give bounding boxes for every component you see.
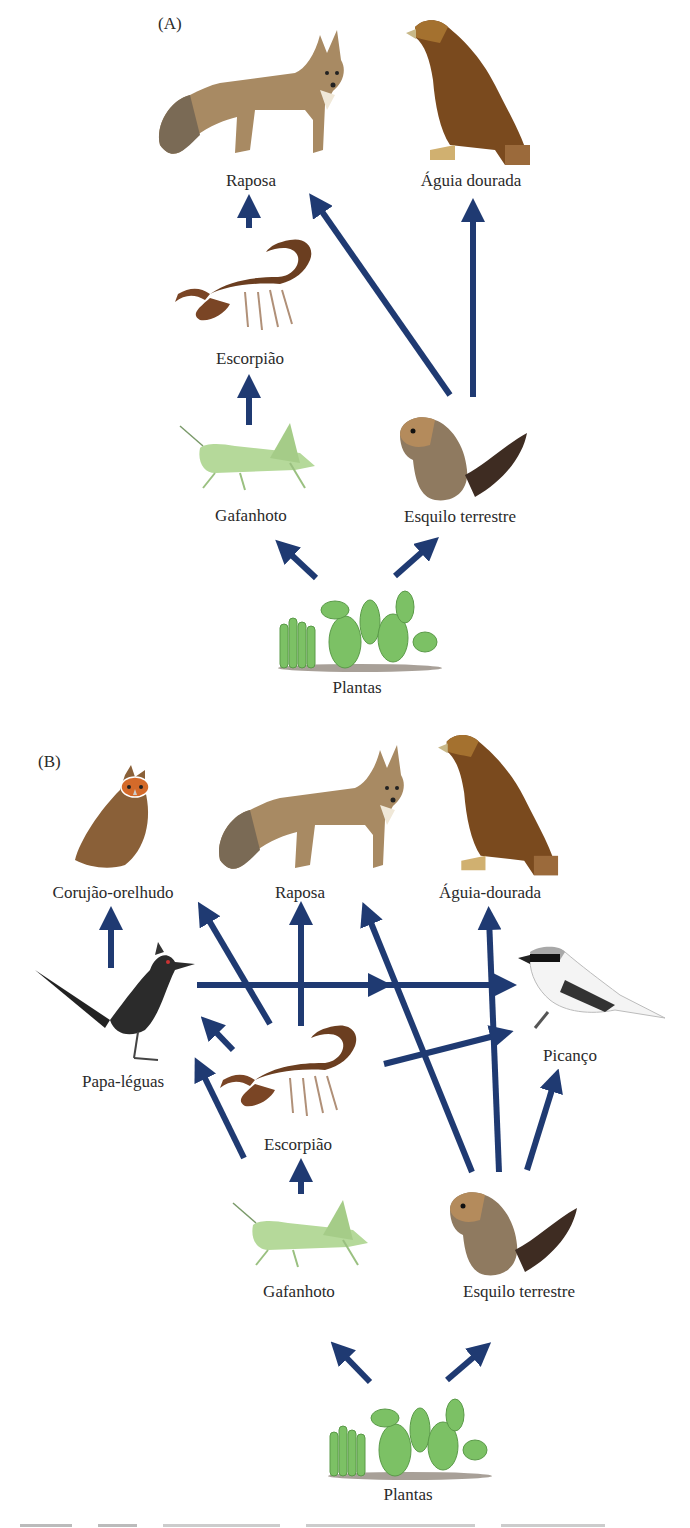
fox-illustration [155,25,355,170]
label-owl: Corujão-orelhudo [53,883,174,903]
cactus-plants-illustration [275,582,445,672]
label-shrike: Picanço [543,1046,597,1066]
label-scorpion-b: Escorpião [264,1135,332,1155]
owl-illustration [65,765,165,875]
label-eagle-a: Águia dourada [421,171,522,191]
label-roadrunner: Papa-léguas [82,1072,164,1092]
label-plants-b: Plantas [383,1485,432,1505]
cactus-plants-illustration-b [325,1390,495,1480]
grasshopper-illustration-b [228,1195,378,1270]
arrow-squirrel-to-fox-a [316,203,450,395]
arrow-plants-to-grasshopper-a [284,548,316,578]
arrow-plants-to-squirrel-a [395,545,430,576]
scorpion-illustration-b [215,1018,375,1130]
shrike-illustration [510,940,670,1040]
arrow-squirrel-to-eagle [489,918,499,1172]
label-fox-b: Raposa [275,883,325,903]
label-scorpion-a: Escorpião [216,349,284,369]
arrow-scorpion-to-shrike [384,1034,502,1064]
eagle-illustration [400,15,540,170]
scorpion-illustration [170,232,330,344]
arrow-scorpion-to-owl [204,912,270,1024]
squirrel-illustration-b [445,1180,585,1280]
fox-illustration-b [215,740,415,885]
arrow-squirrel-to-shrike [527,1080,555,1170]
label-grasshopper-a: Gafanhoto [215,506,287,526]
label-eagle-b: Águia-dourada [439,883,541,903]
label-plants-a: Plantas [332,678,381,698]
label-fox-a: Raposa [226,171,276,191]
label-squirrel-b: Esquilo terrestre [463,1282,575,1302]
label-squirrel-a: Esquilo terrestre [404,507,516,527]
arrow-plants-to-grasshopper [339,1350,370,1382]
figure-caption-cutoff [20,1520,670,1528]
label-grasshopper-b: Gafanhoto [263,1282,335,1302]
arrow-plants-to-squirrel [447,1350,482,1380]
panel-label-b: (B) [38,752,61,772]
roadrunner-illustration [30,940,200,1065]
arrow-squirrel-to-fox [367,913,472,1172]
squirrel-illustration [395,405,535,505]
eagle-illustration-b [430,730,570,880]
grasshopper-illustration [175,418,325,493]
